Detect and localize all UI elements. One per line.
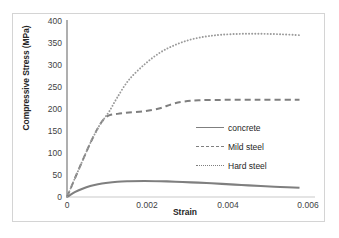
legend-item-mild-steel: Mild steel	[196, 137, 296, 156]
legend-label: Mild steel	[228, 142, 264, 152]
legend-label: concrete	[228, 123, 261, 133]
legend-line-solid-icon	[196, 123, 224, 133]
legend-line-dotted-icon	[196, 161, 224, 171]
stress-strain-chart: Compressive Stress (MPa) 400 350 300 250…	[0, 0, 339, 238]
series-line-concrete	[67, 181, 300, 197]
legend-label: Hard steel	[228, 161, 267, 171]
legend-line-dashed-icon	[196, 142, 224, 152]
legend-item-concrete: concrete	[196, 118, 296, 137]
chart-legend: concrete Mild steel Hard steel	[196, 118, 296, 175]
legend-item-hard-steel: Hard steel	[196, 156, 296, 175]
